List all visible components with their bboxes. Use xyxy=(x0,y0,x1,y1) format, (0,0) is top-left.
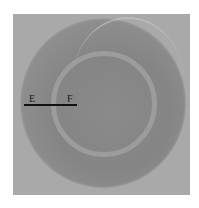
label-e: E xyxy=(29,94,35,104)
measurement-line xyxy=(24,104,77,106)
photograph: E F xyxy=(13,14,190,195)
label-f: F xyxy=(67,94,73,104)
